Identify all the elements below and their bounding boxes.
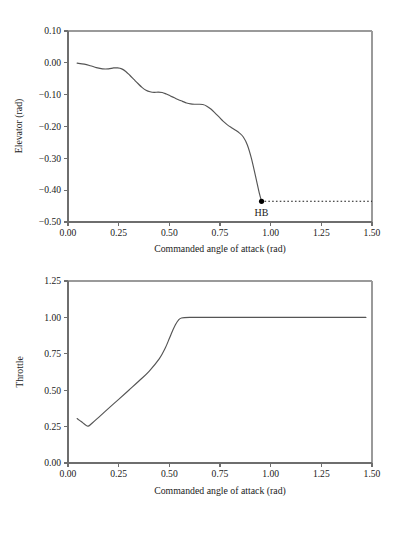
x-tick-label: 0.00 (60, 468, 77, 479)
x-tick-label: 0.75 (212, 468, 229, 479)
y-tick-label: 1.00 (44, 312, 61, 323)
y-tick-label: 0.50 (44, 385, 61, 396)
throttle-tick-labels: 0.000.250.500.751.001.251.500.000.250.50… (44, 275, 380, 479)
y-tick-label: 0.75 (44, 348, 61, 359)
y-tick-label: 0.10 (44, 25, 61, 36)
x-tick-label: 1.00 (262, 468, 279, 479)
elevator-tick-marks (64, 31, 372, 226)
throttle-data-curve (77, 317, 366, 426)
y-tick-label: −0.30 (39, 153, 61, 164)
x-tick-label: 1.00 (262, 227, 279, 238)
elevator-x-axis-title: Commanded angle of attack (rad) (154, 243, 286, 255)
x-tick-label: 0.50 (161, 468, 178, 479)
y-tick-label: 0.00 (44, 57, 61, 68)
hb-annotation-label: HB (255, 207, 269, 218)
y-tick-label: 1.25 (44, 275, 61, 286)
y-tick-label: −0.50 (39, 216, 61, 227)
y-tick-label: 0.25 (44, 421, 61, 432)
elevator-data-curve (77, 63, 261, 201)
y-tick-label: −0.40 (39, 184, 61, 195)
throttle-panel: 0.000.250.500.751.001.251.500.000.250.50… (0, 258, 401, 537)
x-tick-label: 1.25 (313, 468, 330, 479)
elevator-plot-frame (68, 31, 372, 222)
x-tick-label: 0.75 (212, 227, 229, 238)
throttle-x-axis-title: Commanded angle of attack (rad) (154, 485, 286, 497)
hb-marker-dot (259, 199, 264, 204)
elevator-chart-svg: 0.000.250.500.751.001.251.50−0.50−0.40−0… (0, 0, 401, 258)
throttle-chart-svg: 0.000.250.500.751.001.251.500.000.250.50… (0, 258, 401, 537)
throttle-y-axis-title: Throttle (14, 356, 25, 388)
x-tick-label: 0.00 (60, 227, 77, 238)
y-tick-label: 0.00 (44, 457, 61, 468)
x-tick-label: 1.50 (364, 468, 381, 479)
y-tick-label: −0.10 (39, 89, 61, 100)
elevator-y-axis-title: Elevator (rad) (13, 99, 25, 154)
throttle-tick-marks (64, 281, 372, 467)
elevator-tick-labels: 0.000.250.500.751.001.251.50−0.50−0.40−0… (39, 25, 381, 238)
throttle-plot-frame (68, 281, 372, 463)
x-tick-label: 1.50 (364, 227, 381, 238)
x-tick-label: 0.50 (161, 227, 178, 238)
x-tick-label: 1.25 (313, 227, 330, 238)
x-tick-label: 0.25 (110, 468, 127, 479)
y-tick-label: −0.20 (39, 121, 61, 132)
elevator-panel: 0.000.250.500.751.001.251.50−0.50−0.40−0… (0, 0, 401, 258)
x-tick-label: 0.25 (110, 227, 127, 238)
